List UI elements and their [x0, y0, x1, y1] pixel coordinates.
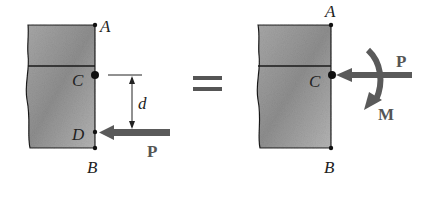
label-c-right: C	[309, 72, 321, 91]
label-a-right: A	[324, 2, 336, 21]
point-c-dot-right	[328, 71, 336, 79]
label-p-right: P	[396, 52, 406, 71]
force-p-arrowhead-right-icon	[336, 68, 352, 82]
point-b-dot	[93, 146, 97, 150]
equivalent-system-diagram: A C D B d P A C B P M	[0, 0, 433, 208]
force-p-arrowhead-icon	[99, 125, 114, 140]
point-a-dot	[93, 23, 97, 27]
left-block	[26, 25, 95, 148]
left-diagram: A C D B d P	[26, 17, 170, 177]
point-b-dot-right	[329, 146, 333, 150]
label-d-distance: d	[138, 94, 147, 113]
right-diagram: A C B P M	[257, 2, 412, 177]
point-a-dot-right	[329, 23, 333, 27]
label-m: M	[378, 105, 394, 124]
label-b-left: B	[87, 158, 98, 177]
label-a-left: A	[99, 17, 111, 36]
label-b-right: B	[324, 158, 335, 177]
force-p-shaft	[112, 129, 170, 136]
label-d-left: D	[71, 125, 85, 144]
equals-sign	[193, 76, 222, 91]
point-d-dot	[93, 130, 97, 134]
point-c-dot	[91, 71, 99, 79]
label-p-left: P	[147, 142, 157, 161]
dimension-arrow-up-icon	[129, 76, 135, 84]
dimension-arrow-down-icon	[129, 121, 135, 129]
label-c-left: C	[72, 71, 84, 90]
